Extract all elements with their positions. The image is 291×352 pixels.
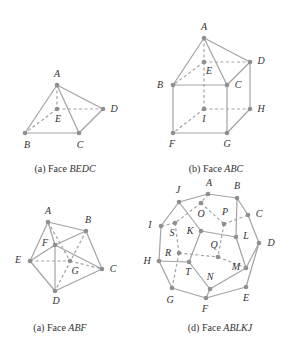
vertex-C <box>100 267 105 272</box>
vertex-D <box>257 241 262 246</box>
vertex-E <box>55 107 60 112</box>
vertex-S <box>173 221 178 226</box>
edge-FG <box>172 288 206 298</box>
vertex-label-Q: Q <box>210 239 218 250</box>
edge-AB <box>208 194 237 198</box>
edge-AC <box>204 38 227 85</box>
vertex-N <box>208 287 213 292</box>
vertex-T <box>187 260 192 265</box>
edge-ED <box>30 261 55 291</box>
vertex-J <box>177 200 182 205</box>
hidden-edge-PQ <box>218 224 224 257</box>
polyhedra-diagram: ABCDE ABCDEFGHI ABCDEFG ABCDEFGHIJKLMNOP… <box>0 0 291 352</box>
vertex-label-A: A <box>44 205 52 216</box>
edge-AD <box>57 85 103 109</box>
edge-CD <box>79 109 103 133</box>
edge-AB <box>48 222 86 231</box>
vertex-label-D: D <box>256 55 265 66</box>
caption-face-name: BEDC <box>69 163 95 174</box>
vertex-label-B: B <box>234 180 240 191</box>
vertex-label-D: D <box>51 295 60 306</box>
edge-LB <box>236 198 237 237</box>
figure-face-abf: ABCDEFG <box>14 205 117 306</box>
vertex-E <box>202 60 207 65</box>
edge-BC <box>86 231 102 269</box>
vertex-I <box>159 224 164 229</box>
vertex-R <box>177 251 182 256</box>
caption-face-name: ABLKJ <box>222 322 252 333</box>
vertex-label-R: R <box>164 247 171 258</box>
caption-face-abc: (b) Face ABC <box>189 163 244 175</box>
vertex-P <box>222 222 227 227</box>
vertex-E <box>28 259 33 264</box>
caption-prefix: (b) Face <box>189 163 225 175</box>
edge-GH <box>227 109 250 133</box>
vertex-label-C: C <box>110 263 117 274</box>
caption-face-ablkj: (d) Face ABLKJ <box>188 322 253 334</box>
vertex-label-S: S <box>170 227 175 238</box>
edge-AB <box>25 85 57 133</box>
hidden-edge-IF <box>173 109 204 133</box>
vertex-I <box>202 107 207 112</box>
vertex-D <box>101 107 106 112</box>
edge-BC <box>237 198 248 215</box>
caption-prefix: (a) Face <box>33 322 68 334</box>
vertex-H <box>248 107 253 112</box>
vertex-label-B: B <box>24 139 30 150</box>
vertex-label-E: E <box>205 65 212 76</box>
vertex-label-O: O <box>197 208 204 219</box>
caption-prefix: (d) Face <box>188 322 224 334</box>
vertex-O <box>199 201 204 206</box>
vertex-label-C: C <box>235 79 242 90</box>
edge-AB <box>173 38 204 85</box>
vertex-A <box>206 192 211 197</box>
vertex-label-P: P <box>221 206 228 217</box>
vertex-label-K: K <box>186 225 195 236</box>
figure-face-ablkj: ABCDEFGHIJKLMNOPQRST <box>142 177 275 314</box>
caption-face-name: ABC <box>223 163 243 174</box>
vertex-label-I: I <box>201 113 206 124</box>
edge-HI <box>159 226 161 261</box>
edge-JA <box>179 194 208 202</box>
hidden-edge-SR <box>175 223 179 253</box>
vertex-H <box>157 259 162 264</box>
edge-KL <box>201 231 236 237</box>
vertex-label-G: G <box>166 294 173 305</box>
vertex-A <box>202 36 207 41</box>
vertex-label-H: H <box>142 255 151 266</box>
hidden-edge-EB <box>25 109 57 133</box>
edge-BF <box>55 231 86 245</box>
vertex-label-A: A <box>205 177 213 188</box>
figure-face-bedc: ABCDE <box>23 68 119 150</box>
vertex-B <box>23 131 28 136</box>
vertex-label-F: F <box>201 303 209 314</box>
vertex-G <box>68 259 73 264</box>
vertex-label-B: B <box>85 214 91 225</box>
vertex-F <box>204 296 209 301</box>
vertex-G <box>170 286 175 291</box>
vertex-C <box>225 83 230 88</box>
vertex-label-I: I <box>147 219 152 230</box>
vertex-Q <box>216 255 221 260</box>
vertex-F <box>171 131 176 136</box>
vertex-label-N: N <box>206 271 215 282</box>
vertex-F <box>53 243 58 248</box>
vertex-B <box>171 83 176 88</box>
caption-face-bedc: (a) Face BEDC <box>34 163 95 175</box>
hidden-edge-RQ <box>179 253 218 257</box>
edge-NM <box>210 268 246 289</box>
vertex-C <box>246 213 251 218</box>
vertex-L <box>234 235 239 240</box>
figure-face-abc: ABCDEFGHI <box>157 21 265 149</box>
edge-AD <box>204 38 250 62</box>
vertex-label-L: L <box>242 230 249 241</box>
vertex-C <box>77 131 82 136</box>
vertex-label-E: E <box>14 254 21 265</box>
vertex-label-F: F <box>41 237 49 248</box>
vertex-E <box>244 285 249 290</box>
vertex-label-E: E <box>54 113 61 124</box>
vertex-label-B: B <box>157 79 163 90</box>
edge-TH <box>159 261 189 262</box>
hidden-edge-AG <box>48 222 70 261</box>
vertex-D <box>53 289 58 294</box>
